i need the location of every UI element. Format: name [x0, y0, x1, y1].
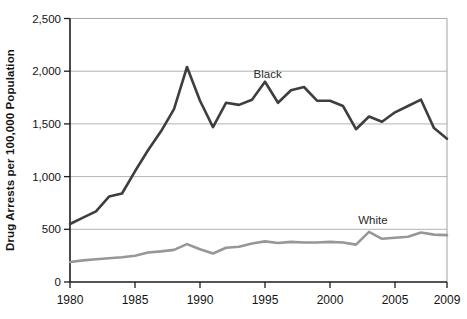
y-tick-label: 1,000 [32, 171, 61, 183]
y-tick-label: 500 [42, 223, 61, 235]
x-tick-label: 1995 [252, 293, 279, 307]
y-axis-title: Drug Arrests per 100,000 Population [4, 49, 16, 251]
y-axis: 05001,0001,5002,0002,500 [32, 13, 70, 289]
line-chart-figure: 05001,0001,5002,0002,500 198019851990199… [0, 0, 467, 319]
x-axis: 1980198519901995200020052009 [57, 282, 461, 307]
x-tick-label: 1990 [187, 293, 214, 307]
y-tick-label: 1,500 [32, 118, 61, 130]
series-lines [70, 67, 447, 262]
series-line-white [70, 232, 447, 262]
series-label-white: White [358, 214, 387, 226]
y-tick-label: 0 [55, 276, 61, 288]
series-label-black: Black [254, 68, 282, 80]
y-tick-label: 2,000 [32, 65, 61, 77]
x-tick-label: 2000 [317, 293, 344, 307]
chart-canvas: 05001,0001,5002,0002,500 198019851990199… [0, 0, 467, 319]
x-tick-label: 1980 [57, 293, 84, 307]
gridlines [70, 71, 447, 229]
x-tick-label: 2009 [434, 293, 461, 307]
y-tick-label: 2,500 [32, 13, 61, 25]
x-tick-label: 2005 [382, 293, 409, 307]
series-labels: BlackWhite [254, 68, 388, 226]
x-tick-label: 1985 [122, 293, 149, 307]
series-line-black [70, 67, 447, 224]
